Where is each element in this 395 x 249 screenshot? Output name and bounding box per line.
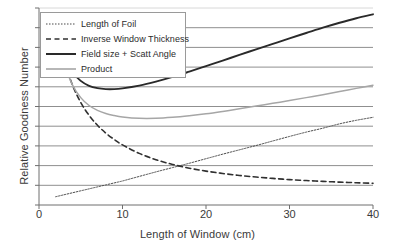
chart-figure: Relative Goodness Number Length of Windo… [0, 0, 395, 249]
x-axis-title: Length of Window (cm) [0, 228, 395, 240]
legend-item-length-of-foil: Length of Foil [41, 16, 185, 31]
legend-item-product: Product [41, 61, 185, 76]
legend-label-length-of-foil: Length of Foil [81, 19, 136, 29]
x-tick-label: 20 [191, 208, 221, 220]
legend-swatch-solid-dark [46, 49, 76, 59]
legend-item-inverse-window-thickness: Inverse Window Thickness [41, 31, 185, 46]
x-tick-label: 10 [108, 208, 138, 220]
legend-label-inverse-window-thickness: Inverse Window Thickness [81, 34, 189, 44]
legend-item-field-size-scatt-angle: Field size + Scatt Angle [41, 46, 185, 61]
legend-swatch-dotted [46, 19, 76, 29]
legend-swatch-dashed [46, 34, 76, 44]
x-tick-label: 30 [275, 208, 305, 220]
legend-swatch-solid-gray [46, 64, 76, 74]
y-axis-title: Relative Goodness Number [18, 6, 30, 226]
x-tick-label: 40 [358, 208, 388, 220]
x-tick-label: 0 [24, 208, 54, 220]
y-tick-marks-group [35, 8, 39, 205]
legend-label-product: Product [81, 64, 112, 74]
chart-legend: Length of Foil Inverse Window Thickness … [40, 12, 186, 78]
legend-label-field-size-scatt-angle: Field size + Scatt Angle [81, 49, 176, 59]
